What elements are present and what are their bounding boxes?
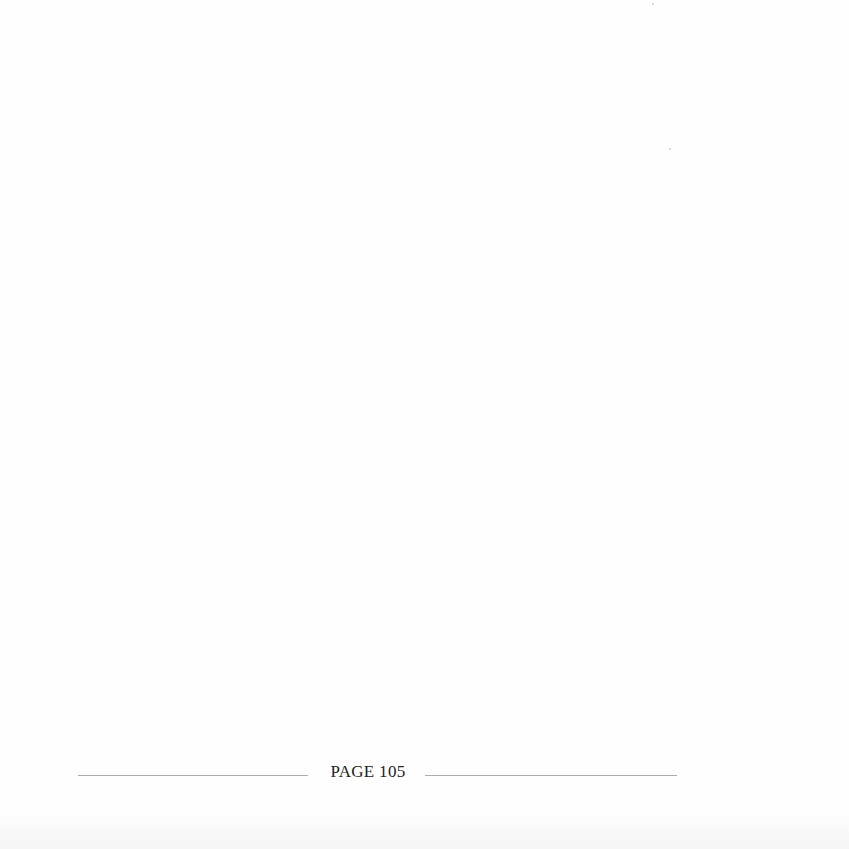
page-number: PAGE 105	[313, 762, 423, 782]
scan-speck	[669, 148, 671, 150]
footer-rule-left	[78, 775, 308, 776]
scan-bleed-through	[0, 812, 849, 849]
page-footer: PAGE 105	[0, 760, 849, 790]
document-page: PAGE 105	[0, 0, 849, 849]
footer-rule-right	[425, 775, 677, 776]
scan-speck	[652, 3, 654, 5]
